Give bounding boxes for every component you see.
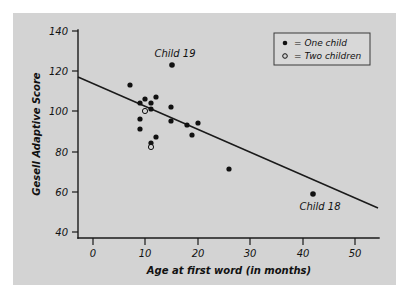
legend: = One child = Two children [274, 33, 370, 65]
y-tick-label-100: 100 [49, 106, 68, 117]
legend-marker-one-child-icon [283, 41, 288, 46]
data-point-open [142, 108, 147, 113]
data-point [137, 100, 142, 105]
data-point-child19 [169, 62, 175, 68]
y-tick-label-80: 80 [55, 147, 68, 158]
data-point [137, 116, 142, 121]
data-point [226, 166, 231, 171]
series-one-child [127, 62, 315, 197]
data-point-open [148, 144, 153, 149]
x-axis-ticks [93, 238, 355, 245]
y-tick-label-120: 120 [49, 66, 68, 77]
data-point-child18 [310, 191, 316, 197]
data-point [148, 100, 153, 105]
y-axis-ticks [72, 31, 78, 232]
data-point [168, 104, 173, 109]
data-point [195, 120, 200, 125]
x-tick-label-0: 0 [90, 248, 96, 259]
data-point [184, 122, 189, 127]
figure-root: 40 60 80 100 120 140 0 10 20 30 40 50 Ag… [0, 0, 409, 298]
x-tick-label-30: 30 [244, 248, 257, 259]
data-point [153, 94, 158, 99]
y-axis-title: Gesell Adaptive Score [31, 72, 42, 195]
annotation-child-19: Child 19 [154, 48, 195, 59]
x-tick-label-10: 10 [139, 248, 152, 259]
y-tick-label-60: 60 [55, 187, 68, 198]
annotation-child-18: Child 18 [299, 201, 340, 212]
data-point [142, 96, 147, 101]
scatter-plot: 40 60 80 100 120 140 0 10 20 30 40 50 Ag… [0, 0, 409, 298]
y-tick-label-140: 140 [49, 26, 68, 37]
x-tick-label-50: 50 [349, 248, 362, 259]
legend-marker-two-children-icon [283, 54, 288, 59]
data-point [148, 106, 153, 111]
y-tick-label-40: 40 [55, 227, 68, 238]
data-point [127, 82, 132, 87]
data-point [168, 118, 173, 123]
x-tick-label-20: 20 [192, 248, 205, 259]
data-point [153, 134, 158, 139]
data-point [189, 132, 194, 137]
x-tick-label-40: 40 [297, 248, 310, 259]
legend-label-two-children: = Two children [294, 51, 361, 61]
data-point [137, 126, 142, 131]
regression-line [78, 77, 378, 208]
legend-label-one-child: = One child [294, 38, 347, 48]
x-axis-title: Age at first word (in months) [146, 265, 311, 276]
